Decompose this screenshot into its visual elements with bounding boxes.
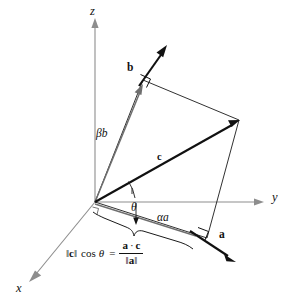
a-vector — [190, 231, 236, 262]
alpha-a-label: αa — [157, 211, 169, 223]
diagram-canvas: z y x b c a βb αa θ — [0, 0, 298, 299]
z-axis — [91, 18, 98, 202]
formula-den-norm-close: ‖ — [134, 254, 137, 266]
formula-theta: θ — [99, 248, 104, 259]
a-vector-label: a — [219, 228, 225, 240]
b-vector-label: b — [127, 61, 133, 73]
formula-numerator: a·c — [119, 240, 143, 254]
formula-fraction: a·c ‖a‖ — [119, 240, 143, 266]
formula-denominator: ‖a‖ — [123, 254, 141, 267]
b-vector — [139, 45, 167, 86]
c-vector — [95, 120, 240, 202]
formula-equals: = — [109, 248, 115, 259]
formula-norm-close: ‖ — [74, 248, 77, 259]
z-axis-label: z — [89, 4, 95, 18]
beta-b-vector — [95, 84, 143, 202]
formula-num-c: c — [136, 239, 141, 251]
c-vector-label: c — [157, 151, 162, 162]
y-axis — [95, 198, 264, 205]
formula-num-dot: · — [130, 239, 134, 251]
y-axis-label: y — [270, 190, 278, 204]
formula-cos: cos — [81, 248, 96, 259]
x-axis-label: x — [15, 281, 22, 295]
vector-projection-figure: z y x b c a βb αa θ ‖c‖ cos θ = a·c ‖a‖ — [0, 0, 298, 299]
projection-formula: ‖c‖ cos θ = a·c ‖a‖ — [66, 240, 143, 266]
beta-b-label: βb — [95, 127, 108, 140]
formula-num-a: a — [122, 239, 128, 251]
theta-label: θ — [131, 201, 137, 213]
